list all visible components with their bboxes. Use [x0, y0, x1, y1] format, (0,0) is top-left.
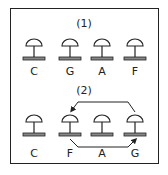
- lamp-icon: [59, 115, 81, 136]
- label-c: C: [24, 147, 44, 160]
- label-g: G: [125, 147, 145, 160]
- arrow-bottom-f-to-g: [70, 139, 135, 147]
- label-g: G: [60, 65, 80, 78]
- lamp-icon: [23, 39, 45, 60]
- panel1-icons: [23, 39, 146, 60]
- arrow-top-g-to-f: [72, 102, 135, 112]
- label-f: F: [60, 147, 80, 160]
- lamp-icon: [124, 115, 146, 136]
- lamp-icon: [59, 39, 81, 60]
- label-c: C: [24, 65, 44, 78]
- label-a: A: [92, 65, 112, 78]
- panel2-icons: [23, 115, 146, 136]
- label-a: A: [92, 147, 112, 160]
- lamp-icon: [23, 115, 45, 136]
- lamp-icon: [91, 115, 113, 136]
- lamp-icon: [91, 39, 113, 60]
- lamp-icon: [124, 39, 146, 60]
- label-f: F: [125, 65, 145, 78]
